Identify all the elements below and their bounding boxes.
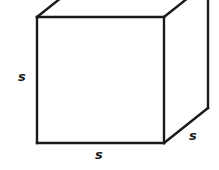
cube-drawing bbox=[0, 0, 219, 170]
side-length-label-height: s bbox=[18, 70, 26, 83]
bottom-right-receding-edge bbox=[164, 108, 208, 143]
side-length-label-width: s bbox=[95, 148, 103, 161]
side-length-label-depth: s bbox=[189, 129, 197, 142]
top-right-receding-edge bbox=[164, 0, 208, 17]
top-left-receding-edge bbox=[37, 0, 81, 17]
cube-diagram: s s s bbox=[0, 0, 219, 170]
